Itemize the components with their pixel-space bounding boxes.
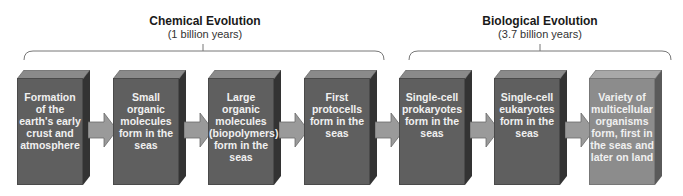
step-box: Small organic molecules form in the seas: [113, 70, 186, 185]
biological-bracket: [409, 51, 671, 60]
box-side-face: [655, 70, 662, 185]
step-box: First protocells form in the seas: [304, 70, 377, 185]
step-box: Formation of the earth's early crust and…: [17, 70, 90, 185]
step-box: Single-cell prokaryotes form in the seas: [399, 70, 472, 185]
step-label: Variety of multicellular organisms form,…: [589, 78, 655, 185]
step-box: Variety of multicellular organisms form,…: [589, 70, 662, 185]
step-label: Formation of the earth's early crust and…: [17, 78, 83, 185]
step-label: Single-cell prokaryotes form in the seas: [399, 78, 465, 185]
step-label: First protocells form in the seas: [304, 78, 370, 185]
step-box: Single-cell eukaryotes form in the seas: [494, 70, 567, 185]
step-label: Single-cell eukaryotes form in the seas: [494, 78, 560, 185]
group-brackets: [0, 0, 683, 70]
step-label: Large organic molecules (biopolymers) fo…: [208, 78, 274, 185]
chemical-bracket: [24, 51, 384, 60]
step-label: Small organic molecules form in the seas: [113, 78, 179, 185]
step-box: Large organic molecules (biopolymers) fo…: [208, 70, 281, 185]
